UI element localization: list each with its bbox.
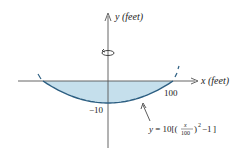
fraction-numerator: x xyxy=(183,122,187,128)
svg-text:): ) xyxy=(194,124,197,134)
svg-text:]: ] xyxy=(213,124,216,134)
curve-extension-right-2 xyxy=(178,66,179,69)
fraction-denominator: 100 xyxy=(181,130,190,136)
y-tick-label: −10 xyxy=(89,105,104,115)
equation-suffix: −1 xyxy=(202,124,212,134)
x-axis-label: x (feet) xyxy=(200,75,230,87)
revolution-diagram: y (feet) x (feet) 100 −10 y = 10[( y = 1… xyxy=(0,0,243,156)
x-tick-label: 100 xyxy=(164,88,178,98)
curve-extension-left xyxy=(38,74,41,79)
y-axis-label: y (feet) xyxy=(114,11,144,23)
curve-extension-right xyxy=(175,73,177,77)
svg-text:y = 10[(: y = 10[( xyxy=(148,124,178,134)
equation-exponent: 2 xyxy=(198,122,201,128)
annotation-arrow-line xyxy=(143,105,150,121)
